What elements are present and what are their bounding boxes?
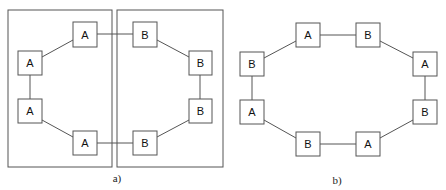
edge [42, 120, 73, 137]
diagram-a: A A A A B B B B a) [8, 10, 223, 185]
node-a: A [18, 51, 42, 75]
node-b: B [240, 52, 264, 76]
svg-text:B: B [197, 105, 204, 117]
svg-text:B: B [364, 29, 371, 41]
node-a: A [296, 23, 320, 47]
edge [264, 41, 296, 58]
node-b: B [189, 99, 212, 123]
svg-text:A: A [304, 29, 312, 41]
node-b: B [296, 132, 320, 156]
caption-b: b) [332, 174, 342, 187]
node-b: B [133, 22, 157, 47]
svg-text:B: B [197, 57, 204, 69]
edge [380, 120, 413, 138]
svg-text:A: A [26, 57, 34, 69]
edge [157, 120, 189, 137]
diagram-b: A B A B A B A B b) [240, 23, 437, 187]
node-a: A [73, 22, 97, 47]
ring-topology-figure: A A A A B B B B a) A B A B A B A B b) [0, 0, 446, 190]
svg-text:A: A [248, 106, 256, 118]
svg-text:B: B [421, 106, 428, 118]
node-a: A [73, 131, 97, 155]
edge [380, 41, 413, 58]
svg-text:B: B [304, 138, 311, 150]
svg-text:A: A [364, 138, 372, 150]
svg-text:A: A [421, 58, 429, 70]
svg-text:B: B [141, 137, 148, 149]
node-a: A [18, 99, 42, 123]
svg-text:A: A [26, 105, 34, 117]
edge [157, 40, 189, 57]
node-a: A [240, 100, 264, 124]
edge [264, 120, 296, 138]
edge [42, 40, 73, 57]
node-b: B [413, 100, 437, 124]
caption-a: a) [113, 172, 122, 185]
node-a: A [413, 52, 437, 76]
node-b: B [356, 23, 380, 47]
node-b: B [133, 131, 157, 155]
node-b: B [189, 51, 212, 75]
svg-text:A: A [81, 29, 89, 41]
node-a: A [356, 132, 380, 156]
svg-text:B: B [248, 58, 255, 70]
svg-text:A: A [81, 137, 89, 149]
svg-text:B: B [141, 29, 148, 41]
